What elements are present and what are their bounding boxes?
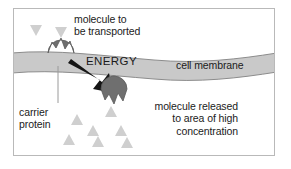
molecule-triangle [71, 114, 83, 125]
carrier-protein-upper [48, 38, 74, 53]
molecule-group-outside [30, 25, 67, 38]
molecule-triangle [92, 136, 104, 147]
label-molecule-released: molecule released to area of high concen… [120, 100, 238, 137]
label-carrier-protein: carrier protein [19, 106, 50, 131]
diagram-figure: molecule to be transported ENERGY cell m… [0, 0, 291, 169]
molecule-triangle [105, 106, 117, 117]
label-molecule-to-be-transported: molecule to be transported [74, 13, 140, 38]
molecule-triangle [63, 134, 75, 145]
label-cell-membrane: cell membrane [176, 59, 244, 71]
molecule-triangle [55, 27, 67, 38]
molecule-triangle [30, 25, 42, 36]
molecule-triangle [87, 125, 99, 136]
label-energy: ENERGY [86, 55, 137, 67]
molecule-triangle [121, 137, 133, 148]
